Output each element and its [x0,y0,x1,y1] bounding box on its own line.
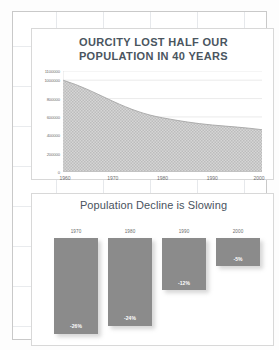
bar-chart-panel[interactable]: Population Decline is Slowing 1970 -26% … [31,193,274,346]
bar-rect-1980[interactable]: -24% [108,238,152,326]
area-chart-svg [63,71,262,172]
area-y-tick-200000: 200000 [47,151,60,156]
bar-year-label-1990: 1990 [162,229,206,234]
slide-page: OURCITY LOST HALF OUR POPULATION IN 40 Y… [0,0,279,350]
bar-year-label-1980: 1980 [108,229,152,234]
bar-chart-plot: 1970 -26% 1980 -24% 1990 -12% [46,216,261,334]
document-frame: OURCITY LOST HALF OUR POPULATION IN 40 Y… [12,11,267,340]
area-x-tick-2000: 2000 [253,175,264,181]
bar-value-label-2000: -5% [216,256,260,262]
area-x-tick-1960: 1960 [59,175,70,181]
bar-rect-2000[interactable]: -5% [216,238,260,266]
area-series-fill [63,80,262,172]
area-y-tick-800000: 800000 [47,96,60,101]
area-chart-panel[interactable]: OURCITY LOST HALF OUR POPULATION IN 40 Y… [31,28,274,180]
bar-year-label-1970: 1970 [54,229,98,234]
area-y-tick-400000: 400000 [47,133,60,138]
area-chart-title-line-1: OURCITY LOST HALF OUR [42,35,265,49]
bar-rect-1970[interactable]: -26% [54,238,98,334]
area-y-tick-0: 0 [58,170,60,175]
bar-year-label-2000: 2000 [216,229,260,234]
bar-rect-1990[interactable]: -12% [162,238,206,290]
area-chart-title-line-2: POPULATION IN 40 YEARS [42,49,265,63]
area-y-tick-1100000: 1100000 [45,69,60,74]
area-chart-title: OURCITY LOST HALF OUR POPULATION IN 40 Y… [42,35,265,63]
area-y-tick-1000000: 1000000 [44,78,60,83]
area-y-tick-600000: 600000 [47,114,60,119]
bar-value-label-1970: -26% [54,323,98,329]
bar-value-label-1990: -12% [162,280,206,286]
area-x-tick-1980: 1980 [157,175,168,181]
bar-chart-title: Population Decline is Slowing [38,199,269,211]
area-x-tick-1990: 1990 [207,175,218,181]
bar-value-label-1980: -24% [108,315,152,321]
area-chart-plot: 1100000 1000000 800000 600000 400000 200… [63,71,262,172]
area-x-tick-1970: 1970 [107,175,118,181]
